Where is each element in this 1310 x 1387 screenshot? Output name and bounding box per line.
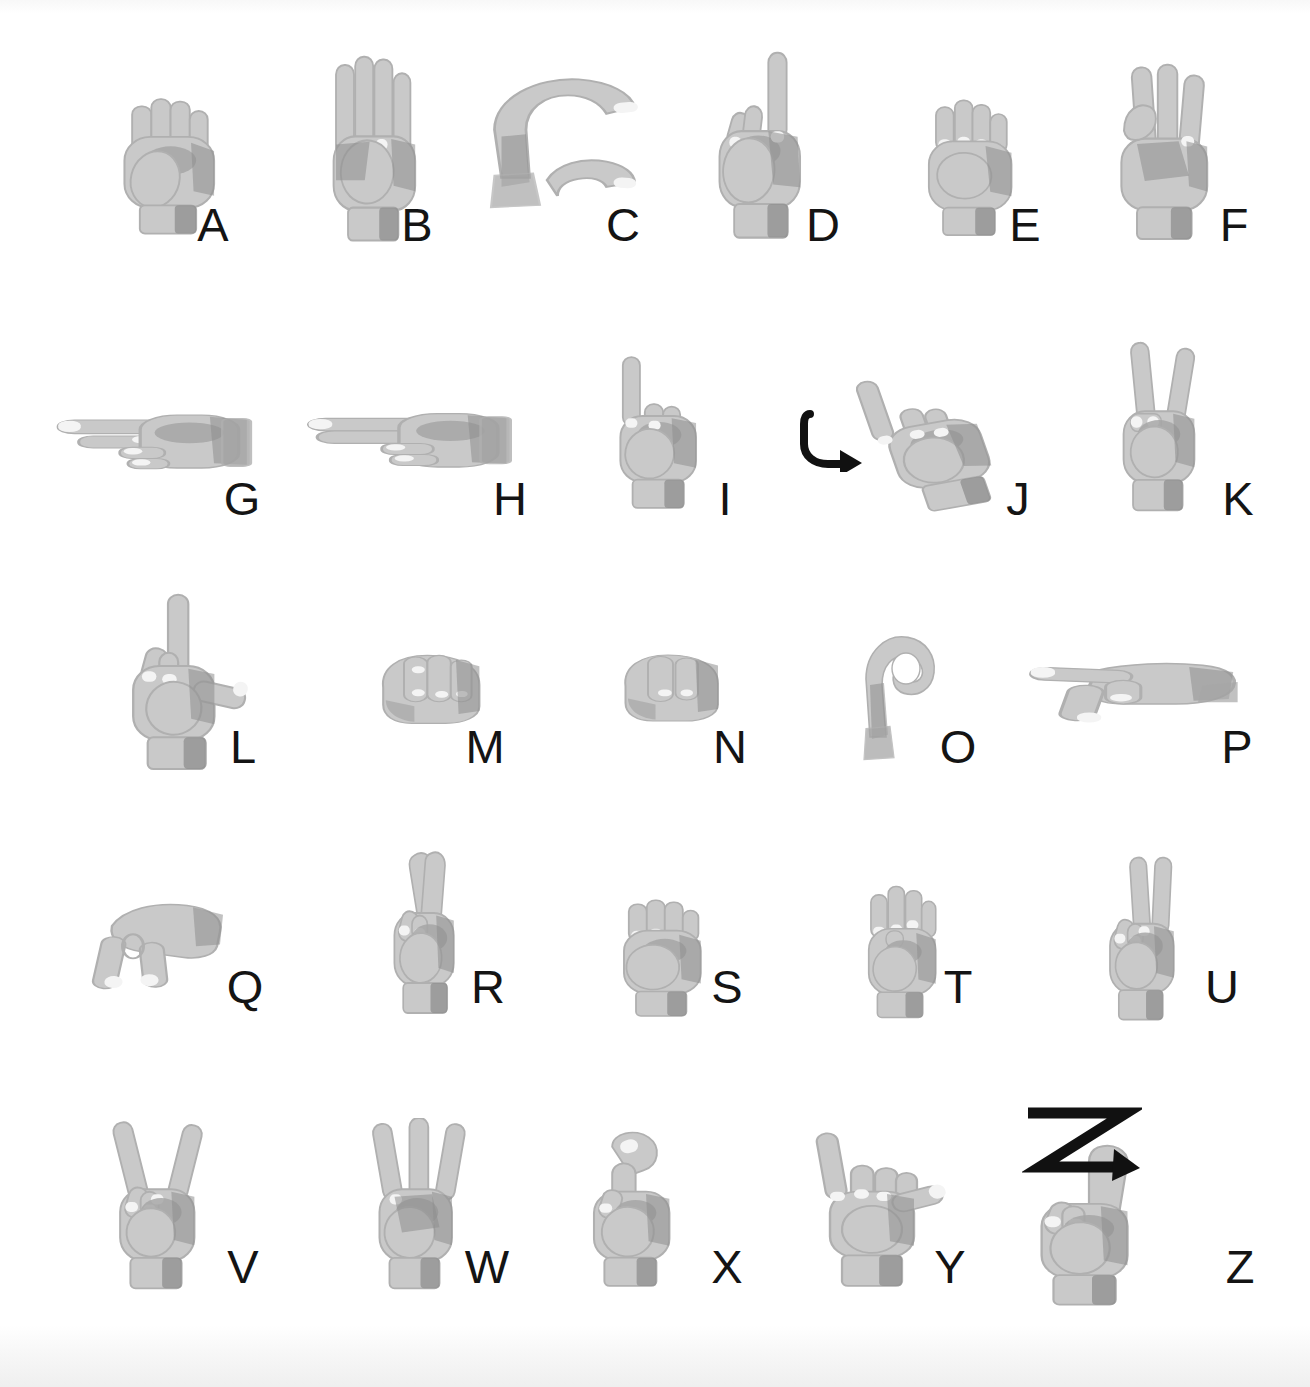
sign-cell-z: Z <box>0 0 1310 1387</box>
letter-label-a: A <box>197 201 228 248</box>
sign-cell-g: G <box>0 0 1310 1387</box>
sign-cell-h: H <box>0 0 1310 1387</box>
letter-label-s: S <box>711 963 742 1010</box>
sign-cell-i: I <box>0 0 1310 1387</box>
letter-label-w: W <box>465 1243 509 1290</box>
sign-cell-t: T <box>0 0 1310 1387</box>
letter-label-l: L <box>230 723 256 770</box>
hand-sign-z-icon <box>1015 1140 1163 1312</box>
hand-sign-w-icon <box>352 1118 477 1296</box>
sign-cell-d: D <box>0 0 1310 1387</box>
hand-sign-f-icon <box>1098 62 1228 247</box>
sign-cell-e: E <box>0 0 1310 1387</box>
sign-cell-x: X <box>0 0 1310 1387</box>
hand-sign-t-icon <box>845 878 953 1026</box>
asl-alphabet-chart: ABCDEFGHI JKLMNOPQRSTUVWXY Z <box>0 0 1310 1387</box>
letter-label-y: Y <box>934 1243 965 1290</box>
letter-label-x: X <box>711 1243 742 1290</box>
hand-sign-s-icon <box>600 882 720 1024</box>
motion-zigzag-arrow-z-icon <box>1022 1105 1142 1183</box>
sign-cell-o: O <box>0 0 1310 1387</box>
sign-cell-n: N <box>0 0 1310 1387</box>
letter-label-i: I <box>718 475 731 522</box>
letter-label-j: J <box>1006 475 1030 522</box>
sign-cell-s: S <box>0 0 1310 1387</box>
letter-label-f: F <box>1220 201 1249 248</box>
letter-label-v: V <box>227 1243 258 1290</box>
letter-label-u: U <box>1205 963 1239 1010</box>
letter-label-c: C <box>606 201 640 248</box>
hand-sign-u-icon <box>1088 855 1198 1027</box>
sign-cell-a: A <box>0 0 1310 1387</box>
hand-sign-l-icon <box>110 592 255 777</box>
letter-label-k: K <box>1222 475 1253 522</box>
hand-sign-r-icon <box>368 848 478 1023</box>
hand-sign-a-icon <box>104 78 232 243</box>
hand-sign-d-icon <box>700 50 822 246</box>
sign-cell-v: V <box>0 0 1310 1387</box>
hand-sign-p-icon <box>1022 645 1242 763</box>
letter-label-d: D <box>806 201 840 248</box>
sign-cell-j: J <box>0 0 1310 1387</box>
sign-cell-k: K <box>0 0 1310 1387</box>
sign-cell-r: R <box>0 0 1310 1387</box>
letter-label-g: G <box>224 475 261 522</box>
sign-cell-l: L <box>0 0 1310 1387</box>
page-top-shade <box>0 0 1310 14</box>
sign-cell-m: M <box>0 0 1310 1387</box>
letter-label-t: T <box>944 963 973 1010</box>
hand-sign-k-icon <box>1100 340 1218 518</box>
letter-label-e: E <box>1009 201 1040 248</box>
letter-label-r: R <box>471 963 505 1010</box>
hand-sign-o-icon <box>848 625 948 770</box>
letter-label-b: B <box>401 201 432 248</box>
sign-cell-y: Y <box>0 0 1310 1387</box>
hand-sign-n-icon <box>608 640 733 745</box>
hand-sign-b-icon <box>312 54 432 246</box>
sign-cell-w: W <box>0 0 1310 1387</box>
hand-sign-h-icon <box>300 390 515 500</box>
letter-label-m: M <box>465 723 504 770</box>
hand-sign-g-icon <box>50 388 255 500</box>
letter-label-q: Q <box>227 963 264 1010</box>
sign-cell-f: F <box>0 0 1310 1387</box>
hand-sign-i-icon <box>596 350 718 515</box>
letter-label-o: O <box>940 723 977 770</box>
sign-cell-c: C <box>0 0 1310 1387</box>
sign-cell-u: U <box>0 0 1310 1387</box>
hand-sign-c-icon <box>470 68 645 228</box>
letter-label-p: P <box>1221 723 1252 770</box>
hand-sign-y-icon <box>800 1128 950 1293</box>
letter-label-z: Z <box>1226 1243 1255 1290</box>
hand-sign-v-icon <box>92 1118 220 1296</box>
hand-sign-m-icon <box>365 640 495 748</box>
sign-cell-b: B <box>0 0 1310 1387</box>
hand-sign-x-icon <box>568 1128 698 1293</box>
hand-sign-e-icon <box>910 82 1028 242</box>
sign-cell-p: P <box>0 0 1310 1387</box>
hand-sign-q-icon <box>88 885 238 1015</box>
page-bottom-shade <box>0 1325 1310 1387</box>
hand-sign-j-icon <box>856 368 1006 518</box>
sign-cell-q: Q <box>0 0 1310 1387</box>
letter-label-h: H <box>493 475 527 522</box>
letter-label-n: N <box>713 723 747 770</box>
motion-hook-arrow-j-icon <box>800 410 870 472</box>
